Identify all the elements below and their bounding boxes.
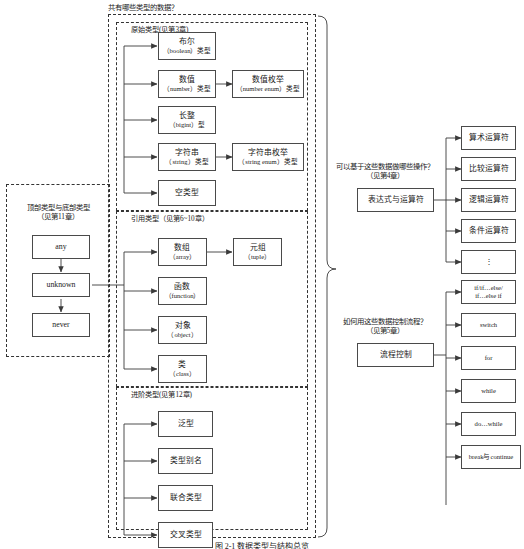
group-top-bottom-types-label: 顶部类型与底部类型 （见第11章） xyxy=(22,203,94,222)
node-boolean-cn: 布尔 xyxy=(163,38,212,47)
node-do-while-label: do…while xyxy=(475,420,503,428)
node-object-cn: 对象 xyxy=(167,322,197,331)
node-union-type-cn: 联合类型 xyxy=(170,494,202,503)
node-unknown: unknown xyxy=(32,273,90,297)
question-operations-line1: 可以基于这些数据做哪些操作？ xyxy=(336,162,434,171)
node-bigint-cn: 长整 xyxy=(169,112,205,121)
node-for-label: for xyxy=(485,354,493,362)
node-array-en: （array） xyxy=(169,253,197,261)
figure-canvas: 共有哪些类型的数据？ 原始类型(见第3章) 布尔 （boolean）类型 数值 … xyxy=(0,0,524,549)
question-types: 共有哪些类型的数据？ xyxy=(108,3,178,12)
node-type-alias: 类型别名 xyxy=(158,448,213,474)
node-arithmetic-operator: 算术运算符 xyxy=(461,126,516,150)
node-string-enum-cn: 字符串枚举 xyxy=(238,149,297,158)
node-while-label: while xyxy=(481,387,496,395)
node-switch: switch xyxy=(461,313,516,337)
node-class-cn: 类 xyxy=(169,361,196,370)
node-flow-control-cn: 流程控制 xyxy=(380,351,412,360)
node-function-cn: 函数 xyxy=(165,283,201,292)
node-unknown-cn: unknown xyxy=(46,281,75,290)
node-if-else-line1: if/if…else/ xyxy=(474,284,503,292)
node-string: 字符串 （string）类型 xyxy=(158,143,216,171)
node-string-en: （string）类型 xyxy=(165,158,208,166)
figure-caption: 图 2-1 数据类型与结构总览 xyxy=(0,540,524,549)
node-any: any xyxy=(32,235,90,259)
node-intersection-type-cn: 交叉类型 xyxy=(170,531,202,540)
node-break-continue: break与continue xyxy=(461,445,521,469)
node-void: 空类型 xyxy=(158,180,216,206)
question-operations: 可以基于这些数据做哪些操作？ （见第4章） xyxy=(335,162,435,181)
node-flow-control: 流程控制 xyxy=(357,343,434,367)
node-comparison-operator-cn: 比较运算符 xyxy=(469,165,509,174)
question-control-flow-line2: （见第5章） xyxy=(366,326,405,335)
node-operators-ellipsis-cn: ⋮ xyxy=(485,259,493,265)
node-class-en: （class） xyxy=(169,370,196,378)
node-logical-operator-cn: 逻辑运算符 xyxy=(469,196,509,205)
question-operations-line2: （见第4章） xyxy=(366,171,405,180)
node-string-cn: 字符串 xyxy=(165,149,208,158)
node-number-cn: 数值 xyxy=(163,76,211,85)
question-control-flow-line1: 如何用这些数据控制流程？ xyxy=(343,317,427,326)
node-break-continue-label: break与continue xyxy=(469,453,513,461)
node-number-enum-cn: 数值枚举 xyxy=(236,76,300,85)
node-object-en: （object） xyxy=(167,331,197,339)
question-control-flow: 如何用这些数据控制流程？ （见第5章） xyxy=(335,317,435,336)
node-bigint: 长整 （bigint）型 xyxy=(158,106,216,134)
node-for: for xyxy=(461,346,516,370)
group-top-bottom-label-line1: 顶部类型与底部类型 xyxy=(27,203,90,212)
node-number-enum-en: （number enum）类型 xyxy=(236,85,300,93)
node-array-cn: 数组 xyxy=(169,244,197,253)
node-type-alias-cn: 类型别名 xyxy=(170,457,202,466)
node-any-cn: any xyxy=(55,243,66,252)
node-logical-operator: 逻辑运算符 xyxy=(461,188,516,212)
node-arithmetic-operator-cn: 算术运算符 xyxy=(469,134,509,143)
node-do-while: do…while xyxy=(461,412,516,436)
node-void-cn: 空类型 xyxy=(175,189,199,198)
node-tuple-cn: 元组 xyxy=(244,244,271,253)
node-union-type: 联合类型 xyxy=(158,485,213,511)
node-operators-ellipsis: ⋮ xyxy=(461,250,516,274)
node-number-enum: 数值枚举 （number enum）类型 xyxy=(232,70,304,98)
node-class: 类 （class） xyxy=(158,355,207,383)
node-tuple: 元组 （tuple） xyxy=(233,238,282,266)
node-number-en: （number）类型 xyxy=(163,85,211,93)
group-top-bottom-label-line2: （见第11章） xyxy=(37,212,79,221)
node-tuple-en: （tuple） xyxy=(244,253,271,261)
node-function-en: （function） xyxy=(165,292,201,300)
node-boolean-en: （boolean）类型 xyxy=(163,47,212,55)
node-switch-label: switch xyxy=(480,321,497,329)
node-bigint-en: （bigint）型 xyxy=(169,121,205,129)
node-expressions-operators: 表达式与运算符 xyxy=(357,188,434,212)
node-number: 数值 （number）类型 xyxy=(158,70,216,98)
node-string-enum: 字符串枚举 （string enum）类型 xyxy=(232,143,304,171)
node-comparison-operator: 比较运算符 xyxy=(461,157,516,181)
node-while: while xyxy=(461,379,516,403)
node-never: never xyxy=(32,313,90,337)
node-conditional-operator: 条件运算符 xyxy=(461,219,516,243)
node-if-else: if/if…else/ if…else if xyxy=(461,280,516,304)
node-generic-cn: 泛型 xyxy=(178,420,194,429)
group-reference-types-label: 引用类型（见第6~10章） xyxy=(131,213,209,223)
node-if-else-line2: if…else if xyxy=(474,292,503,300)
node-expressions-operators-cn: 表达式与运算符 xyxy=(368,196,424,205)
node-never-cn: never xyxy=(52,321,69,330)
node-string-enum-en: （string enum）类型 xyxy=(238,158,297,166)
node-boolean: 布尔 （boolean）类型 xyxy=(158,32,216,60)
node-object: 对象 （object） xyxy=(158,316,207,344)
node-conditional-operator-cn: 条件运算符 xyxy=(469,227,509,236)
node-function: 函数 （function） xyxy=(158,277,207,305)
node-array: 数组 （array） xyxy=(158,238,207,266)
group-advanced-types-label: 进阶类型(见第12章) xyxy=(131,389,192,399)
node-generic: 泛型 xyxy=(158,411,213,437)
